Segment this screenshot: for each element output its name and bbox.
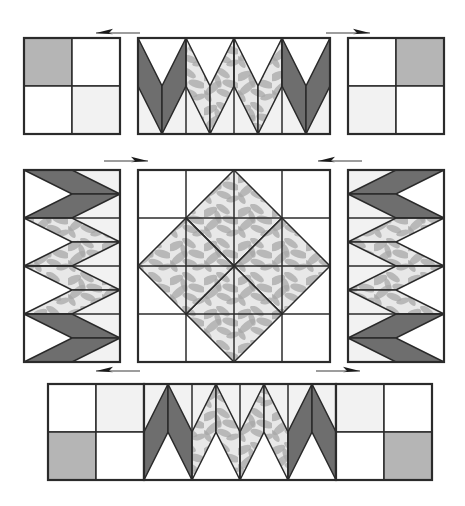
arrow-bottom-right [316,367,360,372]
bottom-row [48,367,432,480]
cell-top-left [348,38,396,86]
bottom-center-chevron-unit[interactable] [144,384,336,480]
center-star-block[interactable] [138,170,330,362]
cell-top-left [336,384,384,432]
cell-bottom-left [48,432,96,480]
bottom-right-corner-unit[interactable] [336,384,432,480]
cell-bottom-right [72,86,120,134]
cell-bottom-left [24,86,72,134]
cell-bottom-right [396,86,444,134]
cell-top-right [396,38,444,86]
arrow-middle-left [104,157,148,162]
arrow-top-right [326,29,370,34]
middle-row [24,157,444,362]
middle-left-chevron-unit[interactable] [24,170,120,362]
quilt-diagram-page [0,0,465,506]
cell-top-right [72,38,120,86]
quilt-assembly-diagram [0,0,465,506]
arrow-top-left [96,29,140,34]
cell-bottom-left [348,86,396,134]
cell-bottom-right [96,432,144,480]
top-center-chevron-unit[interactable] [138,38,330,134]
cell-bottom-right [384,432,432,480]
cell-top-left [48,384,96,432]
top-left-corner-unit[interactable] [24,38,120,134]
top-right-corner-unit[interactable] [348,38,444,134]
arrow-bottom-left [96,367,140,372]
cell-top-right [96,384,144,432]
top-row [24,29,444,134]
cell-top-left [24,38,72,86]
bottom-left-corner-unit[interactable] [48,384,144,480]
middle-right-chevron-unit[interactable] [348,170,444,362]
cell-top-right [384,384,432,432]
cell-bottom-left [336,432,384,480]
arrow-middle-right [318,157,362,162]
